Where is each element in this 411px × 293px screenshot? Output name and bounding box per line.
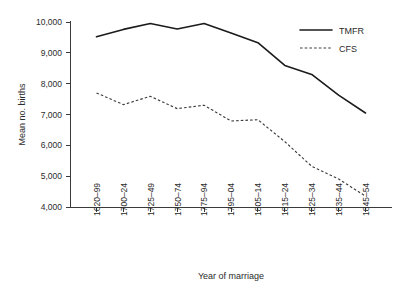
y-tick-label: 6,000 <box>41 140 63 150</box>
plot-area <box>97 24 366 197</box>
series-line-tmfr <box>97 24 366 113</box>
y-tick-label: 10,000 <box>36 17 62 27</box>
x-tick-label: 1700–24 <box>119 183 129 216</box>
y-tick-label: 4,000 <box>41 202 63 212</box>
x-tick-label: 1620–99 <box>92 183 102 216</box>
x-tick-label: 1815–24 <box>280 183 290 216</box>
series-line-cfs <box>97 93 366 196</box>
y-axis: 10,000 9,000 8,000 7,000 6,000 5,000 4,0… <box>17 17 71 212</box>
x-tick-label: 1725–49 <box>146 183 156 216</box>
x-tick-label: 1825–34 <box>307 183 317 216</box>
y-axis-tick-labels: 10,000 9,000 8,000 7,000 6,000 5,000 4,0… <box>36 17 62 212</box>
x-tick-label: 1775–94 <box>199 183 209 216</box>
x-axis-title: Year of marriage <box>198 271 264 281</box>
x-tick-label: 1835–44 <box>334 183 344 216</box>
line-chart: 10,000 9,000 8,000 7,000 6,000 5,000 4,0… <box>0 0 411 293</box>
y-tick-label: 8,000 <box>41 79 63 89</box>
legend: TMFR CFS <box>300 26 364 54</box>
y-tick-label: 5,000 <box>41 171 63 181</box>
chart-container: 10,000 9,000 8,000 7,000 6,000 5,000 4,0… <box>0 0 411 293</box>
x-tick-label: 1795–04 <box>226 183 236 216</box>
x-axis: 1620–99 1700–24 1725–49 1750–74 1775–94 … <box>71 183 393 281</box>
y-tick-label: 7,000 <box>41 110 63 120</box>
y-axis-ticks <box>66 22 71 207</box>
legend-label-tmfr: TMFR <box>339 26 364 36</box>
y-axis-title: Mean no. births <box>17 83 27 146</box>
x-axis-tick-labels: 1620–99 1700–24 1725–49 1750–74 1775–94 … <box>92 183 371 216</box>
x-tick-label: 1845–54 <box>361 183 371 216</box>
legend-label-cfs: CFS <box>339 44 357 54</box>
x-tick-label: 1805–14 <box>253 183 263 216</box>
x-tick-label: 1750–74 <box>173 183 183 216</box>
y-tick-label: 9,000 <box>41 48 63 58</box>
